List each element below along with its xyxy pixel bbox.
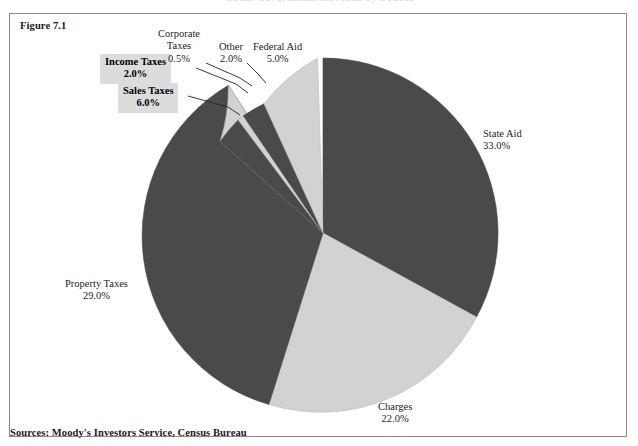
- pie-label-state-aid-value: 33.0%: [483, 140, 522, 152]
- pie-label-other-name: Other: [219, 41, 243, 53]
- pie-label-property-taxes: Property Taxes 29.0%: [65, 278, 128, 303]
- pie-label-sales-taxes-value: 6.0%: [123, 97, 173, 109]
- pie-label-corporate-taxes-value: 0.5%: [158, 53, 200, 65]
- source-note: Sources: Moody's Investors Service, Cens…: [10, 427, 247, 438]
- pie-label-federal-aid-name: Federal Aid: [253, 41, 302, 53]
- pie-label-property-taxes-value: 29.0%: [65, 290, 128, 302]
- pie-label-state-aid: State Aid 33.0%: [483, 128, 522, 153]
- pie-label-state-aid-name: State Aid: [483, 128, 522, 140]
- pie-label-corporate-taxes-name: Corporate: [158, 28, 200, 40]
- pie-label-sales-taxes-name: Sales Taxes: [123, 85, 173, 97]
- pie-label-income-taxes-value: 2.0%: [105, 68, 166, 80]
- cutoff-figure-title: Local Government Revenue by Source: [150, 0, 490, 3]
- pie-label-other: Other 2.0%: [219, 41, 243, 66]
- pie-label-corporate-taxes-name2: Taxes: [158, 40, 200, 52]
- pie-label-charges-name: Charges: [378, 401, 412, 413]
- cutoff-title-strip: Local Government Revenue by Source: [0, 0, 638, 13]
- pie-label-income-taxes-name: Income Taxes: [105, 56, 166, 68]
- pie-label-federal-aid: Federal Aid 5.0%: [253, 41, 302, 66]
- pie-label-charges-value: 22.0%: [378, 413, 412, 425]
- pie-label-sales-taxes: Sales Taxes 6.0%: [118, 83, 178, 113]
- pie-label-federal-aid-value: 5.0%: [253, 53, 302, 65]
- pie-label-property-taxes-name: Property Taxes: [65, 278, 128, 290]
- pie-label-corporate-taxes: Corporate Taxes 0.5%: [158, 28, 200, 65]
- pie-label-charges: Charges 22.0%: [378, 401, 412, 426]
- pie-label-other-value: 2.0%: [219, 53, 243, 65]
